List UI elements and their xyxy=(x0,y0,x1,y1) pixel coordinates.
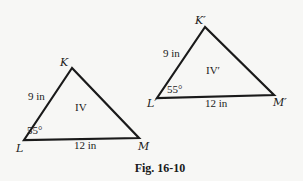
triangle-iv-prime: K′ L′ M′ 9 in 12 in 55° IV′ xyxy=(146,14,287,110)
triangle-roman-label: IV xyxy=(75,101,87,113)
vertex-label-m-prime: M′ xyxy=(272,96,287,109)
side-kl-length: 9 in xyxy=(28,90,45,102)
side-kl-prime-length: 9 in xyxy=(163,47,180,59)
side-lm-prime-length: 12 in xyxy=(205,97,228,109)
vertex-label-k-prime: K′ xyxy=(194,14,206,27)
vertex-label-m: M xyxy=(137,140,150,153)
side-lm-length: 12 in xyxy=(74,139,97,151)
angle-l-measure: 55° xyxy=(27,124,42,136)
triangle-roman-label-prime: IV′ xyxy=(206,64,220,76)
vertex-label-l: L xyxy=(15,142,23,155)
angle-l-prime-measure: 55° xyxy=(167,83,182,95)
vertex-label-l-prime: L′ xyxy=(146,97,157,110)
vertex-label-k: K xyxy=(59,56,69,69)
figure-caption: Fig. 16-10 xyxy=(135,161,186,175)
figure-16-10: K L M 9 in 12 in 55° IV K′ L′ M′ 9 in 12… xyxy=(0,0,303,181)
triangle-iv: K L M 9 in 12 in 55° IV xyxy=(15,56,150,155)
